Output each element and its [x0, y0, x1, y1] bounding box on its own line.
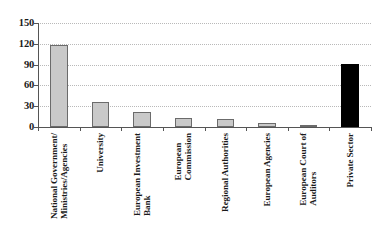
gridline — [38, 85, 371, 86]
y-axis-tick-label: 120 — [8, 39, 34, 50]
bar — [133, 112, 150, 127]
x-axis-category-text: University — [95, 133, 105, 173]
y-axis-tick-label: 30 — [8, 101, 34, 112]
y-axis-tick-label: 60 — [8, 80, 34, 91]
x-axis-category-text: Private Sector — [345, 133, 355, 187]
x-axis-category-label: University — [80, 133, 122, 249]
x-axis-tick-mark — [246, 127, 247, 131]
bar — [175, 118, 192, 127]
x-axis-category-label: European Agencies — [246, 133, 288, 249]
x-axis-category-label: Private Sector — [329, 133, 371, 249]
x-axis-category-label: Regional Authorities — [205, 133, 247, 249]
bar-chart: 0306090120150 National Government/ Minis… — [0, 0, 384, 251]
x-axis-tick-mark — [371, 127, 372, 131]
x-axis-category-text: European Agencies — [262, 133, 272, 206]
x-axis-tick-mark — [163, 127, 164, 131]
x-axis-category-label: European Court of Auditors — [288, 133, 330, 249]
gridline — [38, 65, 371, 66]
x-axis-category-text: National Government/ Ministries/Agencies — [49, 133, 70, 219]
y-axis-line — [38, 23, 39, 128]
y-axis-tick-label: 90 — [8, 59, 34, 70]
y-axis-tick-label: 150 — [8, 18, 34, 29]
bar — [92, 102, 109, 127]
y-axis-tick-label: 0 — [8, 122, 34, 133]
gridline — [38, 44, 371, 45]
x-axis-category-label: European Investment Bank — [121, 133, 163, 249]
bar — [217, 119, 234, 127]
x-axis-category-label: National Government/ Ministries/Agencies — [38, 133, 80, 249]
x-axis-tick-mark — [329, 127, 330, 131]
x-axis-category-text: European Investment Bank — [132, 133, 153, 216]
x-axis-category-text: Regional Authorities — [220, 133, 230, 212]
bar — [341, 64, 358, 127]
y-axis-tick-labels: 0306090120150 — [0, 0, 34, 251]
gridline — [38, 106, 371, 107]
x-axis-tick-mark — [38, 127, 39, 131]
gridline — [38, 23, 371, 24]
x-axis-category-text: European Commission — [173, 133, 194, 181]
x-axis-category-label: European Commission — [163, 133, 205, 249]
x-axis-tick-mark — [205, 127, 206, 131]
x-axis-tick-mark — [121, 127, 122, 131]
x-axis-tick-mark — [288, 127, 289, 131]
bar — [50, 45, 67, 127]
x-axis-tick-mark — [80, 127, 81, 131]
plot-area — [38, 23, 371, 127]
x-axis-category-text: European Court of Auditors — [298, 133, 319, 206]
